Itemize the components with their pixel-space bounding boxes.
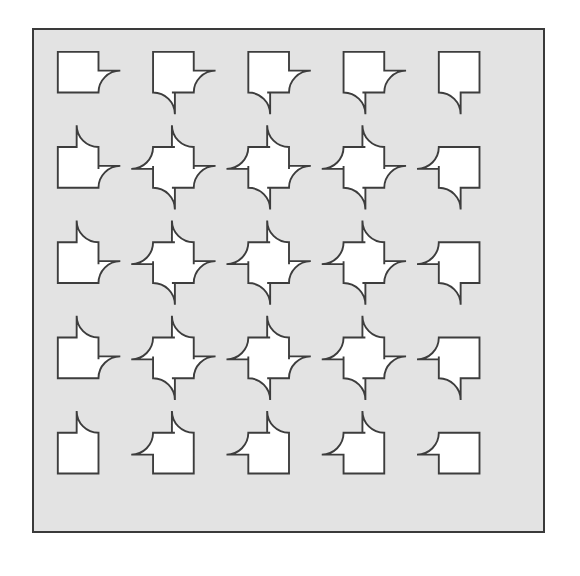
tile-r1-c0 xyxy=(58,125,121,188)
tile-r2-c0 xyxy=(58,220,121,283)
tile-r3-c0 xyxy=(58,316,121,379)
tile-r2-c4 xyxy=(417,242,480,305)
tile-r0-c4 xyxy=(439,52,480,115)
tile-r4-c3 xyxy=(322,411,385,474)
page-root: Quarter-circle lobed square tiling xyxy=(0,0,580,576)
figure-frame xyxy=(32,28,545,533)
tile-r1-c2 xyxy=(226,125,310,209)
tile-r0-c0 xyxy=(58,52,121,93)
tile-r3-c4 xyxy=(417,338,480,401)
tile-r4-c2 xyxy=(226,411,289,474)
figure-title: Quarter-circle lobed square tiling xyxy=(0,0,1,1)
tile-r2-c2 xyxy=(226,220,310,304)
tile-r4-c1 xyxy=(131,411,194,474)
tile-r4-c0 xyxy=(58,411,99,474)
tile-r0-c3 xyxy=(344,52,407,115)
tile-r1-c3 xyxy=(322,125,406,209)
tile-r3-c1 xyxy=(131,316,215,400)
tile-r1-c4 xyxy=(417,147,480,210)
tile-r3-c3 xyxy=(322,316,406,400)
tile-r1-c1 xyxy=(131,125,215,209)
tiling-pattern-svg xyxy=(34,30,543,531)
tile-r2-c3 xyxy=(322,220,406,304)
tiles-group xyxy=(58,52,480,474)
tile-r2-c1 xyxy=(131,220,215,304)
tile-r0-c2 xyxy=(248,52,311,115)
tile-r3-c2 xyxy=(226,316,310,400)
tile-r0-c1 xyxy=(153,52,216,115)
tile-r4-c4 xyxy=(417,433,480,474)
